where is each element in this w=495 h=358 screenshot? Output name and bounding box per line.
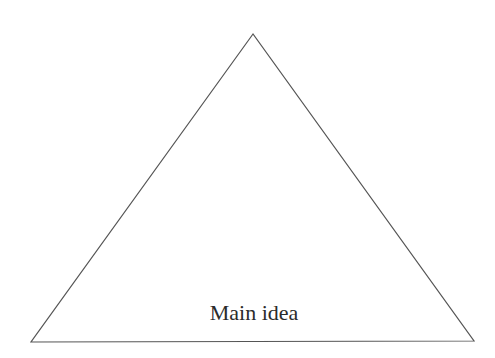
main-idea-label: Main idea <box>210 300 299 325</box>
pyramid-diagram: Main idea <box>0 0 495 358</box>
triangle-shape <box>31 34 474 342</box>
